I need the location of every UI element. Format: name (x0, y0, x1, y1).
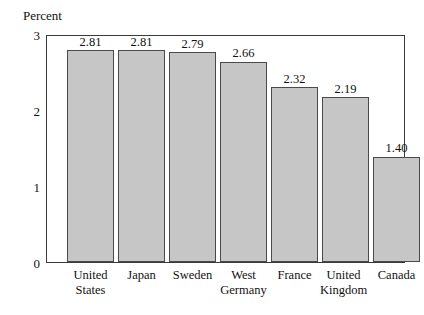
plot-area (47, 36, 404, 262)
y-tick-label: 0 (22, 257, 40, 270)
bar-sweden[interactable] (169, 52, 216, 262)
bar-value-united-states: 2.81 (67, 36, 114, 49)
bar-west-germany[interactable] (220, 62, 267, 263)
x-label-line2: Kingdom (313, 283, 374, 298)
x-label-line1: France (277, 268, 311, 282)
bar-value-france: 2.32 (271, 73, 318, 86)
bar-canada[interactable] (373, 157, 420, 263)
x-label-line1: Japan (127, 268, 155, 282)
x-label-canada: Canada (366, 268, 424, 283)
x-label-united-kingdom: United Kingdom (313, 268, 374, 298)
y-tick-label: 2 (22, 105, 40, 118)
bar-value-united-kingdom: 2.19 (322, 83, 369, 96)
x-label-line1: United (73, 268, 107, 282)
bar-united-states[interactable] (67, 50, 114, 262)
bar-value-sweden: 2.79 (169, 38, 216, 51)
y-tick-label: 3 (22, 29, 40, 42)
x-label-line1: Canada (378, 268, 415, 282)
bar-value-west-germany: 2.66 (220, 47, 267, 60)
y-axis-title: Percent (23, 8, 62, 23)
bar-value-canada: 1.40 (373, 142, 420, 155)
bar-france[interactable] (271, 87, 318, 262)
x-label-line2: States (60, 283, 121, 298)
x-label-line1: United (326, 268, 360, 282)
x-label-line2: Germany (213, 283, 274, 298)
bar-united-kingdom[interactable] (322, 97, 369, 262)
bar-japan[interactable] (118, 50, 165, 262)
bar-value-japan: 2.81 (118, 36, 165, 49)
x-label-line1: Sweden (173, 268, 213, 282)
y-tick-label: 1 (22, 181, 40, 194)
x-label-line1: West (231, 268, 256, 282)
